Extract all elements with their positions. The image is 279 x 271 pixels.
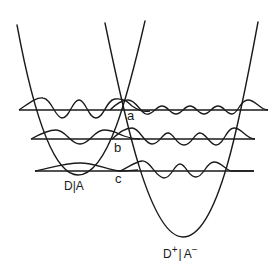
level-a-label: a — [127, 108, 135, 123]
level-c — [35, 161, 254, 178]
right-well-label: D+|A− — [163, 244, 198, 261]
level-b — [31, 128, 255, 145]
level-c-label: c — [115, 171, 122, 186]
left-well-label: D|A — [64, 179, 84, 193]
level-b-label: b — [114, 140, 121, 155]
left-potential-well — [17, 21, 145, 175]
level-a — [19, 98, 268, 118]
right-potential-well — [105, 22, 258, 237]
diagram-canvas: a b c D|A D+|A− — [0, 0, 279, 271]
electron-transfer-diagram: a b c D|A D+|A− — [0, 0, 279, 271]
